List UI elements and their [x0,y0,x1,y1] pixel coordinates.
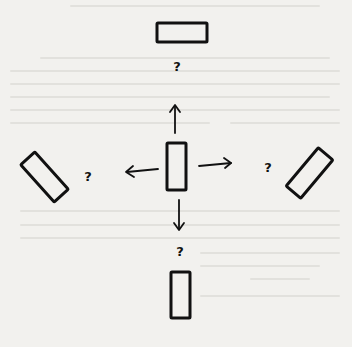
arrow-up-icon [170,105,180,133]
outcome-up-label: ? [173,59,181,74]
outcome-left-label: ? [84,169,92,184]
outcome-down-label: ? [176,244,184,259]
outcome-right-rectangle [286,148,333,199]
outcome-left-rectangle [21,152,69,202]
arrow-left-icon [126,166,158,177]
outcome-up-rectangle [157,23,207,42]
center-rectangle [167,143,186,190]
diagram-canvas [0,0,352,347]
arrow-down-icon [174,200,184,230]
outcome-right-label: ? [264,160,272,175]
outcome-down-rectangle [171,272,190,318]
arrow-right-icon [199,158,231,168]
